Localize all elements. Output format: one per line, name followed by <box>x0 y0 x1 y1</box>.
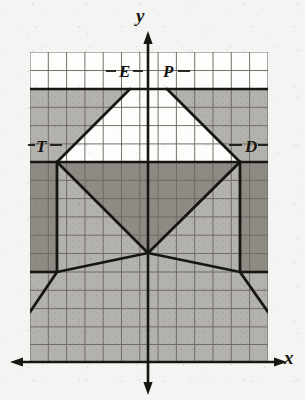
point-label-D: D <box>245 138 257 155</box>
point-label-T: T <box>36 138 46 155</box>
x-axis-label: x <box>284 348 294 367</box>
geometry-figure <box>0 0 305 400</box>
point-label-P: P <box>163 63 173 80</box>
y-axis-label: y <box>136 6 144 25</box>
point-label-E: E <box>119 63 130 80</box>
